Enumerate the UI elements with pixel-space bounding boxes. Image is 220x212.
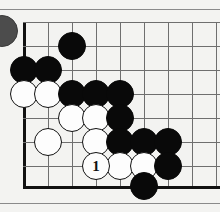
stone-white-4-7[interactable]: 1 xyxy=(82,152,110,180)
go-board[interactable]: 1 xyxy=(0,0,220,212)
board-hline-2 xyxy=(23,46,220,47)
stone-move-number: 1 xyxy=(83,153,109,179)
stone-black-6-8[interactable] xyxy=(130,172,158,200)
stone-black-3-2[interactable] xyxy=(58,32,86,60)
board-hline-1 xyxy=(23,22,220,23)
go-diagram-figure: 1 xyxy=(0,0,220,212)
board-hline-8 xyxy=(23,186,220,189)
stone-white-2-6[interactable] xyxy=(34,128,62,156)
stone-black-7-7[interactable] xyxy=(154,152,182,180)
